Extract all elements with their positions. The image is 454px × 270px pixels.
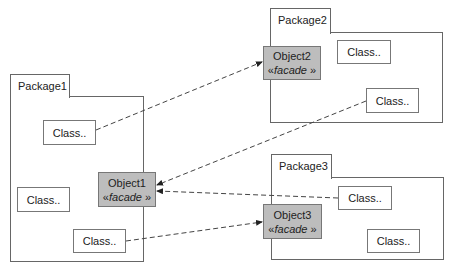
class-box[interactable]: Class.. [337,40,391,64]
guillemet-close: » [142,191,151,203]
class-box[interactable]: Class.. [367,229,420,253]
class-label: Class.. [376,95,410,107]
object-name: Object2 [273,49,311,63]
package-tab[interactable]: Package3 [271,154,332,179]
stereotype-text: facade [274,223,307,235]
class-box[interactable]: Class.. [17,187,70,212]
facade-object[interactable]: Object3«facade » [263,204,322,239]
class-label: Class.. [83,235,117,247]
class-box[interactable]: Class.. [366,88,419,113]
class-box[interactable]: Class.. [338,186,392,210]
guillemet-close: » [307,223,316,235]
class-label: Class.. [347,46,381,58]
facade-object[interactable]: Object1«facade » [98,172,156,207]
class-label: Class.. [377,235,411,247]
guillemet-close: » [307,64,316,76]
object-name: Object1 [108,176,146,190]
object-stereotype: «facade » [268,63,316,77]
class-label: Class.. [348,192,382,204]
class-label: Class.. [27,194,61,206]
class-label: Class.. [53,127,87,139]
class-box[interactable]: Class.. [43,120,96,145]
stereotype-text: facade [274,64,307,76]
facade-object[interactable]: Object2«facade » [263,46,321,80]
package-tab[interactable]: Package2 [270,8,331,34]
object-name: Object3 [274,208,312,222]
object-stereotype: «facade » [103,190,151,204]
class-box[interactable]: Class.. [73,229,126,253]
object-stereotype: «facade » [268,222,316,236]
stereotype-text: facade [109,191,142,203]
package-tab[interactable]: Package1 [10,74,70,98]
dependency-arrow [126,222,262,241]
